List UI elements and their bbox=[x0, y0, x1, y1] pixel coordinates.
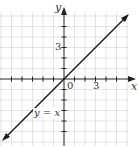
coordinate-plane bbox=[0, 0, 138, 147]
y-axis-label: y bbox=[55, 2, 61, 13]
line-label: y = x bbox=[33, 108, 61, 118]
y-axis-arrow-icon bbox=[61, 7, 67, 15]
origin-label: 0 bbox=[67, 81, 73, 91]
y-tick-label-3: 3 bbox=[55, 42, 61, 52]
x-tick-label-3: 3 bbox=[93, 81, 99, 91]
x-axis-label: x bbox=[131, 81, 137, 92]
line-y-equals-x bbox=[2, 14, 129, 141]
